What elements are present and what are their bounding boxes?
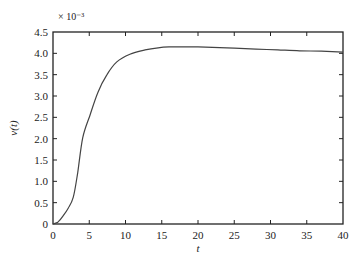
plot-frame bbox=[53, 32, 343, 224]
x-tick-label: 35 bbox=[301, 229, 313, 241]
y-tick-label: 2.5 bbox=[34, 111, 48, 123]
y-tick-label: 0.5 bbox=[34, 197, 48, 209]
y-tick-label: 3.0 bbox=[34, 90, 48, 102]
x-tick-label: 25 bbox=[229, 229, 241, 241]
x-tick-label: 0 bbox=[50, 229, 56, 241]
y-tick-label: 1.5 bbox=[34, 154, 48, 166]
y-tick-label: 0 bbox=[43, 218, 49, 230]
x-tick-label: 20 bbox=[193, 229, 205, 241]
y-tick-label: 4.0 bbox=[34, 47, 48, 59]
series-line bbox=[53, 47, 343, 224]
x-axis-label: t bbox=[196, 242, 200, 254]
y-tick-label: 2.0 bbox=[34, 133, 48, 145]
y-axis-label: v(t) bbox=[7, 120, 20, 136]
y-tick-label: 1.0 bbox=[34, 175, 48, 187]
y-scale-exponent-label: × 10⁻³ bbox=[58, 11, 84, 22]
x-tick-label: 15 bbox=[156, 229, 168, 241]
x-tick-label: 10 bbox=[120, 229, 132, 241]
y-tick-label: 3.5 bbox=[34, 69, 48, 81]
y-tick-label: 4.5 bbox=[34, 26, 48, 38]
x-tick-label: 30 bbox=[265, 229, 277, 241]
x-tick-label: 5 bbox=[87, 229, 93, 241]
data-series bbox=[53, 47, 343, 224]
plot-axes bbox=[53, 32, 343, 224]
x-tick-label: 40 bbox=[338, 229, 350, 241]
line-chart: 051015202530354000.51.01.52.02.53.03.54.… bbox=[0, 0, 361, 265]
